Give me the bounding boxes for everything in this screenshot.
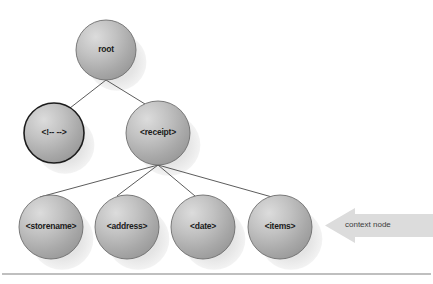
diagram-canvas: root<!-- --><receipt><storename><address… <box>0 0 433 284</box>
node-layer <box>19 20 312 259</box>
tree-node-storename[interactable] <box>19 195 83 259</box>
tree-diagram-svg <box>0 0 433 284</box>
tree-node-root[interactable] <box>76 20 136 80</box>
edge-receipt-to-address <box>117 165 158 196</box>
edge-root-to-comment <box>70 80 106 108</box>
tree-node-date[interactable] <box>171 195 235 259</box>
tree-node-items[interactable] <box>248 195 312 259</box>
edge-receipt-to-items <box>158 165 272 197</box>
tree-node-receipt[interactable] <box>126 101 190 165</box>
tree-node-comment[interactable] <box>24 103 84 163</box>
context-node-annotation-label: context node <box>345 220 391 229</box>
tree-node-address[interactable] <box>95 195 159 259</box>
